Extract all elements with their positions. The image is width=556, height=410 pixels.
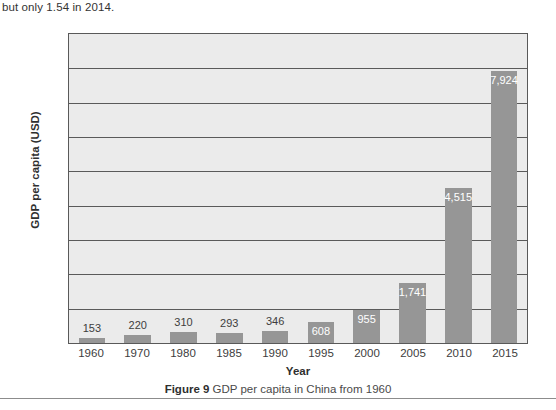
bar-slot: 153 — [69, 34, 115, 343]
bar-2015[interactable]: 7,924 — [491, 71, 518, 343]
bar-value-label-1985: 293 — [218, 317, 240, 330]
bar-1960[interactable]: 153 — [79, 338, 106, 343]
x-axis-title: Year — [68, 365, 528, 377]
bar-value-label-1960: 153 — [81, 322, 103, 335]
bar-1980[interactable]: 310 — [170, 332, 197, 343]
bar-2000[interactable]: 955 — [353, 310, 380, 343]
figure-caption-text: GDP per capita in China from 1960 — [209, 383, 391, 395]
x-tick-1960: 1960 — [68, 347, 114, 359]
bar-slot: 310 — [161, 34, 207, 343]
bar-slot: 220 — [115, 34, 161, 343]
figure-caption: Figure 9 GDP per capita in China from 19… — [0, 383, 556, 395]
bar-slot: 4,515 — [435, 34, 481, 343]
figure-container: 1532203102933466089551,7414,5157,924 GDP… — [0, 22, 556, 392]
bar-value-label-1990: 346 — [264, 315, 286, 328]
bar-slot: 293 — [206, 34, 252, 343]
x-tick-2010: 2010 — [436, 347, 482, 359]
bar-value-label-2015: 7,924 — [490, 74, 518, 87]
x-tick-1970: 1970 — [114, 347, 160, 359]
bar-2005[interactable]: 1,741 — [399, 283, 426, 343]
bar-slot: 955 — [344, 34, 390, 343]
bar-slot: 7,924 — [481, 34, 527, 343]
figure-caption-label: Figure 9 — [165, 383, 210, 395]
page-footer-rule — [0, 398, 556, 399]
bar-1990[interactable]: 346 — [262, 331, 289, 343]
bar-1985[interactable]: 293 — [216, 333, 243, 343]
chart-plot-area: 1532203102933466089551,7414,5157,924 — [68, 33, 528, 344]
chart-bars: 1532203102933466089551,7414,5157,924 — [69, 34, 527, 343]
bar-slot: 1,741 — [390, 34, 436, 343]
y-axis-title: GDP per capita (USD) — [29, 90, 41, 250]
x-tick-2005: 2005 — [390, 347, 436, 359]
x-tick-1980: 1980 — [160, 347, 206, 359]
x-axis-tick-labels: 1960197019801985199019952000200520102015 — [68, 347, 528, 359]
bar-value-label-1970: 220 — [127, 319, 149, 332]
bar-value-label-2010: 4,515 — [445, 191, 473, 204]
x-tick-2015: 2015 — [482, 347, 528, 359]
bar-2010[interactable]: 4,515 — [445, 188, 472, 343]
bar-value-label-1980: 310 — [172, 316, 194, 329]
body-paragraph-text: but only 1.54 in 2014. — [2, 1, 114, 13]
bar-value-label-2000: 955 — [357, 313, 375, 326]
x-tick-2000: 2000 — [344, 347, 390, 359]
bar-1995[interactable]: 608 — [308, 322, 335, 343]
bar-1970[interactable]: 220 — [124, 335, 151, 343]
bar-slot: 608 — [298, 34, 344, 343]
bar-value-label-1995: 608 — [312, 325, 330, 338]
x-tick-1990: 1990 — [252, 347, 298, 359]
x-tick-1995: 1995 — [298, 347, 344, 359]
bar-slot: 346 — [252, 34, 298, 343]
bar-value-label-2005: 1,741 — [399, 286, 427, 299]
x-tick-1985: 1985 — [206, 347, 252, 359]
